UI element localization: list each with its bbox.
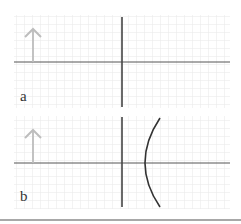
panel-b: b (0, 112, 241, 220)
diagram-a (0, 0, 241, 112)
panel-label-b: b (20, 188, 28, 205)
bottom-divider (0, 219, 241, 221)
panel-a: a (0, 0, 241, 112)
panel-label-a: a (20, 88, 27, 105)
diagram-b (0, 112, 241, 220)
